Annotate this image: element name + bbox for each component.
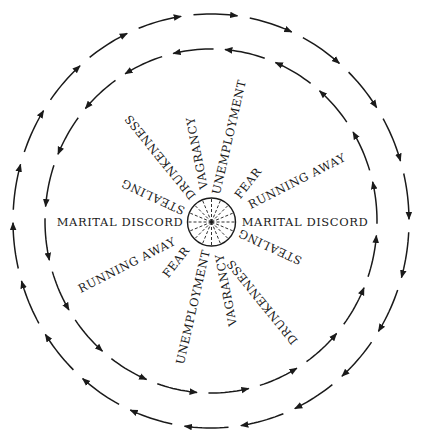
ring-arrow-segment: [139, 16, 182, 28]
hub-spoke: [190, 222, 211, 231]
label-marital-discord-right: MARITAL DISCORD: [242, 215, 369, 229]
ring-arrow-segment: [344, 288, 364, 324]
ring-arrow-segment: [378, 290, 397, 331]
ring-arrow-segment: [225, 50, 265, 59]
ring-arrow-segment: [295, 385, 333, 409]
hub-spoke: [212, 206, 228, 222]
ring-arrow-segment: [85, 80, 115, 108]
hub-spoke: [212, 222, 228, 238]
ring-arrow-segment: [46, 165, 54, 206]
hub-spoke: [203, 222, 212, 243]
hub-spoke: [195, 222, 211, 238]
hub-spoke: [212, 213, 233, 222]
ring-arrow-segment: [24, 111, 43, 152]
ring-arrow-segment: [275, 62, 310, 83]
ring-arrow-segment: [52, 272, 69, 310]
ring-arrow-segment: [383, 119, 400, 161]
label-stealing-bottom: STEALING: [236, 226, 304, 268]
ring-arrow-segment: [368, 236, 376, 277]
hub-spoke: [190, 213, 211, 222]
ring-arrow-segment: [320, 91, 347, 122]
label-running-away-top: RUNNING AWAY: [246, 150, 348, 211]
hub-dashed-spokes: [189, 199, 235, 245]
ring-arrow-segment: [260, 368, 297, 385]
ring-arrow-segment: [404, 174, 409, 220]
label-running-away-bottom: RUNNING AWAY: [76, 234, 178, 295]
ring-arrow-segment: [22, 281, 39, 323]
central-hub: [188, 198, 236, 246]
ring-arrow-segment: [58, 118, 78, 154]
ring-arrow-segment: [342, 342, 372, 376]
ring-arrow-segment: [111, 359, 146, 380]
ring-arrow-segment: [173, 49, 213, 54]
hub-spoke: [212, 201, 221, 222]
ring-arrow-segment: [303, 38, 339, 64]
hub-spoke: [195, 206, 211, 222]
ring-arrow-segment: [349, 72, 377, 107]
social-problems-cycle-diagram: MARITAL DISCORD MARITAL DISCORD RUNNING …: [0, 0, 421, 437]
hub-spoke: [212, 222, 233, 231]
ring-arrow-segment: [13, 164, 20, 209]
ring-arrow-segment: [50, 66, 80, 100]
ring-arrow-segment: [13, 223, 18, 269]
ring-arrow-segment: [306, 333, 336, 361]
ring-arrow-segment: [130, 410, 172, 424]
ring-arrow-segment: [125, 57, 162, 74]
ring-arrow-segment: [45, 334, 73, 369]
hub-spoke: [203, 201, 212, 222]
ring-arrow-segment: [157, 384, 197, 393]
ring-arrow-segment: [193, 14, 237, 16]
ring-arrow-segment: [208, 388, 248, 393]
label-marital-discord-left: MARITAL DISCORD: [57, 215, 184, 229]
ring-arrow-segment: [75, 320, 102, 351]
ring-arrow-segment: [83, 379, 119, 405]
ring-arrow-segment: [241, 414, 284, 426]
hub-spoke: [212, 222, 221, 243]
ring-arrow-segment: [250, 18, 292, 32]
ring-arrow-segment: [45, 218, 49, 260]
ring-arrow-segment: [90, 33, 128, 57]
ring-arrow-segment: [185, 426, 229, 428]
ring-arrow-segment: [353, 132, 370, 170]
ring-arrow-segment: [373, 182, 377, 224]
ring-arrow-segment: [401, 232, 408, 277]
